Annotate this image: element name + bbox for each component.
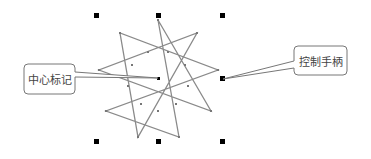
handle-top-left[interactable] (94, 13, 99, 18)
center-marker-label: 中心标记 (24, 64, 75, 94)
handle-top-right[interactable] (220, 13, 225, 18)
handle-bottom-center[interactable] (156, 139, 161, 144)
control-handle-label: 控制手柄 (294, 46, 347, 75)
handle-bottom-right[interactable] (220, 139, 225, 144)
handle-top-center[interactable] (156, 13, 161, 18)
center-marker[interactable] (157, 77, 160, 80)
handle-bottom-left[interactable] (94, 139, 99, 144)
